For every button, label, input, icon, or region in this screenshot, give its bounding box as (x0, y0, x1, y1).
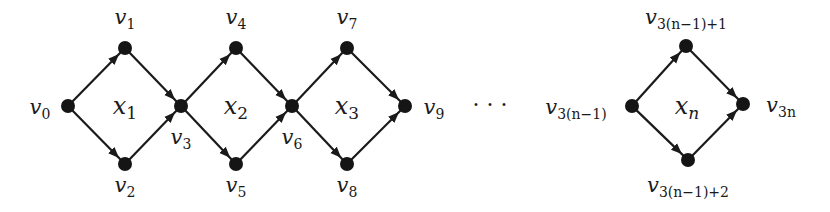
vertex-label-v2: v2 (115, 173, 136, 200)
edge-v4-v6 (240, 52, 288, 101)
vertex-label-v3n1p1: v3(n−1)+1 (645, 5, 727, 32)
arrowhead-icon (171, 116, 172, 117)
edge-v7-v9 (351, 52, 401, 102)
vertex-v0 (61, 99, 75, 113)
vertex-v5 (229, 157, 243, 171)
edge-v3n1p1-v3n (690, 50, 739, 99)
ellipsis: · · · (473, 92, 508, 117)
gadget-label-x3: x3 (335, 92, 359, 123)
arrowhead-icon (732, 114, 733, 115)
vertex-v8 (340, 157, 354, 171)
arrowhead-icon (171, 95, 172, 96)
vertex-v3n1 (625, 99, 639, 113)
arrowhead-icon (282, 116, 283, 117)
vertex-label-v3: v3 (171, 125, 192, 152)
edge-v1-v3 (129, 52, 177, 101)
vertex-v3n1p2 (681, 153, 695, 167)
gadget-label-x1: x1 (113, 92, 137, 123)
vertex-label-v6: v6 (282, 125, 303, 152)
vertex-label-v8: v8 (337, 173, 358, 200)
nodes-group (61, 39, 750, 171)
vertex-label-v0: v0 (30, 95, 51, 122)
arrowhead-icon (732, 93, 733, 94)
vertex-v7 (340, 41, 354, 55)
vertex-label-v3n1: v3(n−1) (545, 95, 606, 122)
vertex-label-v3n1p2: v3(n−1)+2 (647, 173, 729, 200)
gadget-label-x2: x2 (224, 92, 248, 123)
vertex-label-v4: v4 (226, 5, 247, 32)
vertex-v9 (398, 99, 412, 113)
vertex-v3n (736, 97, 750, 111)
vertex-v2 (118, 157, 132, 171)
diamond-chain-diagram: v0v1v2v3v4v5v6v7v8v9v3(n−1)v3(n−1)+1v3(n… (0, 0, 830, 212)
arrowhead-icon (226, 153, 227, 154)
vertex-label-v3n: v3n (766, 93, 796, 120)
arrowhead-icon (394, 95, 395, 96)
vertex-v3n1p1 (679, 39, 693, 53)
arrowhead-icon (337, 153, 338, 154)
arrowhead-icon (677, 150, 678, 151)
arrowhead-icon (337, 58, 338, 59)
vertex-label-v1: v1 (115, 5, 136, 32)
vertex-v1 (118, 41, 132, 55)
arrowhead-icon (226, 58, 227, 59)
arrowhead-icon (114, 58, 115, 59)
vertex-v3 (174, 99, 188, 113)
arrowhead-icon (676, 56, 677, 57)
vertex-v4 (229, 41, 243, 55)
arrowhead-icon (282, 95, 283, 96)
gadget-label-xn: xn (675, 92, 700, 123)
vertex-label-v7: v7 (337, 5, 358, 32)
vertex-v6 (285, 99, 299, 113)
arrowhead-icon (394, 116, 395, 117)
arrowhead-icon (114, 153, 115, 154)
vertex-label-v5: v5 (226, 173, 247, 200)
vertex-label-v9: v9 (424, 95, 445, 122)
